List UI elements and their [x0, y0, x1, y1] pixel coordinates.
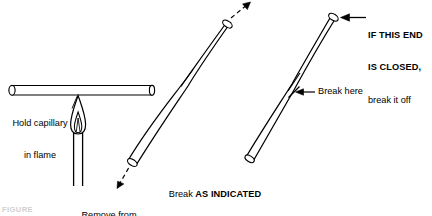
break-tube-upper-end: [327, 12, 339, 23]
capillary-left-open-end: [9, 85, 15, 95]
figure-capillary-spotters: Hold capillary in flame Remove from flam…: [0, 0, 432, 216]
label-remove-from-flame: Remove from flame and pull: [63, 188, 155, 216]
label-break-here: Break here: [318, 86, 363, 97]
label-break-as-indicated: Break AS INDICATED to get two spotters: [156, 167, 274, 216]
label-break-as-prefix: Break: [169, 189, 196, 199]
label-hold-capillary-line1: Hold capillary: [2, 118, 78, 129]
closed-end-arrowhead: [341, 14, 350, 21]
label-if-this-end-closed: IF THIS END IS CLOSED, break it off: [368, 8, 423, 127]
break-tube-lower-end: [244, 154, 256, 164]
label-if-this-end-line2: IS CLOSED,: [368, 62, 423, 73]
label-remove-line1: Remove from: [63, 210, 155, 216]
label-hold-capillary: Hold capillary in flame: [2, 96, 78, 183]
label-break-as-emphasis: AS INDICATED: [195, 189, 261, 199]
horizontal-capillary-tube: [12, 86, 152, 96]
pulled-tube-lower-end: [126, 157, 138, 168]
label-hold-capillary-line2: in flame: [2, 150, 78, 161]
label-if-this-end-line3: break it off: [368, 95, 423, 106]
pulled-tube-waist: [181, 70, 193, 87]
label-if-this-end-line1: IF THIS END: [368, 30, 423, 41]
label-break-as-line1: Break AS INDICATED: [156, 189, 274, 200]
figure-caption: FIGURE: [2, 205, 33, 214]
pull-arrow-up-head: [243, 2, 251, 10]
capillary-right-end: [149, 85, 154, 95]
